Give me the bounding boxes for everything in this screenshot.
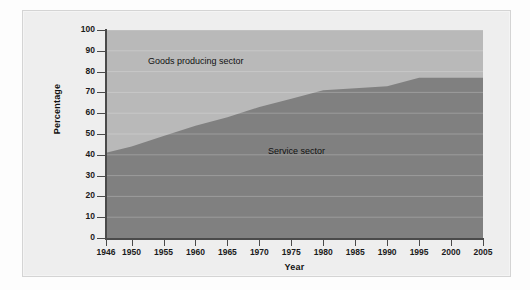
y-tick-label: 90 [62, 46, 95, 56]
y-axis-line [105, 29, 107, 240]
y-tick-label-text: 90 [69, 46, 95, 55]
y-tick-label: 0 [62, 233, 95, 243]
y-tick-label: 70 [62, 87, 95, 97]
y-tick-mark [97, 176, 105, 177]
y-tick-label: 50 [62, 129, 95, 139]
x-tick-mark [323, 240, 324, 246]
x-tick-mark [291, 240, 292, 246]
y-tick-label-text: 60 [69, 108, 95, 117]
x-axis-line [105, 238, 484, 240]
series-label-service-sector: Service sector [268, 146, 325, 156]
x-tick-mark [387, 240, 388, 246]
y-tick-label-text: 40 [69, 150, 95, 159]
y-tick-label: 20 [62, 191, 95, 201]
x-tick-mark [106, 240, 107, 246]
y-tick-label-text: 80 [69, 67, 95, 76]
y-tick-mark [97, 30, 105, 31]
y-tick-label-text: 50 [69, 129, 95, 138]
x-tick-mark [419, 240, 420, 246]
y-tick-label: 60 [62, 108, 95, 118]
y-tick-label-text: 20 [69, 191, 95, 200]
y-tick-label: 10 [62, 212, 95, 222]
y-axis-title: Percentage [52, 74, 62, 144]
figure-container: 0102030405060708090100 19461950195519601… [0, 0, 530, 290]
x-tick-mark [164, 240, 165, 246]
y-tick-mark [97, 134, 105, 135]
y-tick-label: 80 [62, 67, 95, 77]
x-axis-title: Year [106, 262, 483, 272]
y-tick-label-text: 100 [69, 25, 95, 34]
series-label-goods-producing-sector: Goods producing sector [148, 56, 244, 66]
x-tick-mark [259, 240, 260, 246]
x-tick-label: 2005 [463, 248, 503, 257]
y-tick-label: 40 [62, 150, 95, 160]
y-tick-mark [97, 238, 105, 239]
x-tick-mark [132, 240, 133, 246]
y-tick-mark [97, 92, 105, 93]
y-tick-mark [97, 217, 105, 218]
y-tick-label: 100 [62, 25, 95, 35]
y-tick-mark [97, 113, 105, 114]
y-tick-label-text: 70 [69, 87, 95, 96]
x-tick-mark [195, 240, 196, 246]
y-tick-mark [97, 155, 105, 156]
y-tick-mark [97, 51, 105, 52]
y-tick-label-text: 0 [69, 233, 95, 242]
x-tick-mark [227, 240, 228, 246]
y-tick-label-text: 10 [69, 212, 95, 221]
x-tick-mark [451, 240, 452, 246]
y-tick-mark [97, 196, 105, 197]
x-tick-mark [483, 240, 484, 246]
y-tick-label-text: 30 [69, 171, 95, 180]
y-tick-label: 30 [62, 171, 95, 181]
x-tick-mark [355, 240, 356, 246]
y-tick-mark [97, 72, 105, 73]
